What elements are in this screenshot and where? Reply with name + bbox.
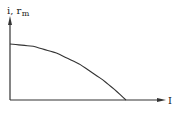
plot-svg: i, rm I bbox=[0, 0, 178, 113]
data-curve bbox=[10, 44, 126, 100]
y-axis-label: i, rm bbox=[7, 5, 30, 18]
x-axis-arrow-icon bbox=[157, 98, 166, 102]
graph-figure: i, rm I bbox=[0, 0, 178, 113]
y-axis-arrow-icon bbox=[8, 16, 12, 25]
x-axis-label: I bbox=[168, 95, 172, 106]
